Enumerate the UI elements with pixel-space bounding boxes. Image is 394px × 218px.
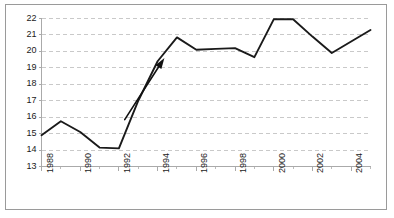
y-tick-label-13: 13 bbox=[17, 162, 37, 171]
y-tick-label-20: 20 bbox=[17, 46, 37, 55]
y-tick-label-19: 19 bbox=[17, 63, 37, 72]
x-tick-label-2000: 2000 bbox=[278, 152, 287, 172]
x-tick-label-1988: 1988 bbox=[46, 152, 55, 172]
axis-lines bbox=[42, 19, 371, 167]
x-tick-label-1992: 1992 bbox=[123, 152, 132, 172]
trend-arrow-annotation bbox=[125, 58, 165, 120]
y-tick-label-22: 22 bbox=[17, 14, 37, 23]
x-tick-label-1990: 1990 bbox=[84, 152, 93, 172]
y-tick-label-18: 18 bbox=[17, 79, 37, 88]
y-tick-label-15: 15 bbox=[17, 129, 37, 138]
grid-lines bbox=[42, 19, 371, 151]
y-tick-label-17: 17 bbox=[17, 96, 37, 105]
y-tick-label-14: 14 bbox=[17, 145, 37, 154]
x-tick-label-2002: 2002 bbox=[316, 152, 325, 172]
y-tick-label-16: 16 bbox=[17, 112, 37, 121]
trend-arrow-shaft bbox=[125, 66, 160, 120]
x-tick-label-1998: 1998 bbox=[239, 152, 248, 172]
x-tick-label-1994: 1994 bbox=[162, 152, 171, 172]
y-tick-label-21: 21 bbox=[17, 30, 37, 39]
line-chart bbox=[0, 0, 394, 218]
x-tick-label-1996: 1996 bbox=[200, 152, 209, 172]
x-tick-label-2004: 2004 bbox=[355, 152, 364, 172]
